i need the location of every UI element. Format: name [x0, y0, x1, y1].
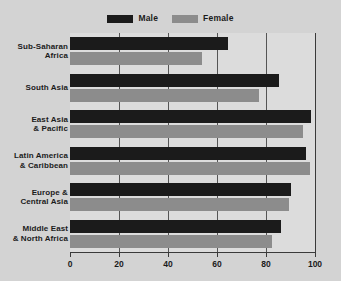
x-tick-label-40: 40	[163, 259, 172, 269]
category-axis-labels: Sub-SaharanAfricaSouth AsiaEast Asia& Pa…	[0, 33, 68, 252]
category-label-line: & Caribbean	[2, 161, 68, 171]
category-label-3: Latin America& Caribbean	[2, 151, 68, 170]
x-tick-label-60: 60	[212, 259, 221, 269]
category-label-line: & North Africa	[2, 234, 68, 244]
bar-group	[70, 147, 315, 175]
x-tick-mark-40	[168, 253, 169, 257]
x-tick-mark-80	[266, 253, 267, 257]
bar-male	[70, 37, 228, 50]
category-label-line: Latin America	[2, 151, 68, 161]
x-tick-label-80: 80	[261, 259, 270, 269]
x-tick-label-100: 100	[308, 259, 322, 269]
category-label-line: South Asia	[2, 83, 68, 93]
bar-female	[70, 162, 310, 175]
bar-female	[70, 198, 289, 211]
x-tick-label-0: 0	[68, 259, 73, 269]
x-axis: 020406080100	[70, 253, 316, 273]
bar-male	[70, 74, 279, 87]
category-label-0: Sub-SaharanAfrica	[2, 42, 68, 61]
bar-group	[70, 110, 315, 138]
bar-female	[70, 89, 259, 102]
category-label-line: & Pacific	[2, 124, 68, 134]
category-label-line: East Asia	[2, 115, 68, 125]
bar-male	[70, 147, 306, 160]
bar-female	[70, 125, 303, 138]
category-label-4: Europe &Central Asia	[2, 188, 68, 207]
chart-legend: MaleFemale	[0, 14, 341, 23]
category-label-5: Middle East& North Africa	[2, 224, 68, 243]
bar-group	[70, 37, 315, 65]
bar-female	[70, 235, 272, 248]
category-label-line: Europe &	[2, 188, 68, 198]
plot-area	[70, 33, 316, 253]
chart-screenshot: MaleFemale Sub-SaharanAfricaSouth AsiaEa…	[0, 0, 341, 281]
bar-group	[70, 183, 315, 211]
category-label-2: East Asia& Pacific	[2, 115, 68, 134]
x-tick-mark-0	[70, 253, 71, 257]
category-label-line: Central Asia	[2, 197, 68, 207]
bar-group	[70, 220, 315, 248]
legend-swatch-male-icon	[107, 15, 133, 23]
bar-group	[70, 74, 315, 102]
x-tick-mark-60	[217, 253, 218, 257]
legend-entry-female[interactable]: Female	[172, 14, 234, 23]
bar-female	[70, 52, 202, 65]
x-tick-label-20: 20	[114, 259, 123, 269]
legend-label: Male	[138, 14, 158, 23]
legend-label: Female	[203, 14, 234, 23]
category-label-1: South Asia	[2, 83, 68, 93]
legend-swatch-female-icon	[172, 15, 198, 23]
bar-male	[70, 183, 291, 196]
bar-male	[70, 220, 281, 233]
x-tick-mark-100	[315, 253, 316, 257]
x-tick-mark-20	[119, 253, 120, 257]
category-label-line: Middle East	[2, 224, 68, 234]
category-label-line: Sub-Saharan	[2, 42, 68, 52]
bar-male	[70, 110, 311, 123]
legend-entry-male[interactable]: Male	[107, 14, 158, 23]
category-label-line: Africa	[2, 51, 68, 61]
